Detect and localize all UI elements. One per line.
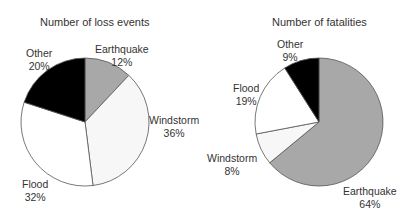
left-chart-title: Number of loss events	[40, 16, 149, 28]
right-chart-title: Number of fatalities	[272, 16, 367, 28]
right-label-earthquake: Earthquake 64%	[343, 185, 397, 211]
left-label-windstorm: Windstorm 36%	[149, 114, 199, 140]
right-label-other: Other 9%	[277, 38, 303, 64]
left-label-flood: Flood 32%	[22, 178, 48, 204]
right-label-flood: Flood 19%	[233, 82, 259, 108]
right-label-windstorm: Windstorm 8%	[207, 152, 257, 178]
left-label-other: Other 20%	[26, 47, 52, 73]
left-label-earthquake: Earthquake 12%	[95, 43, 149, 69]
